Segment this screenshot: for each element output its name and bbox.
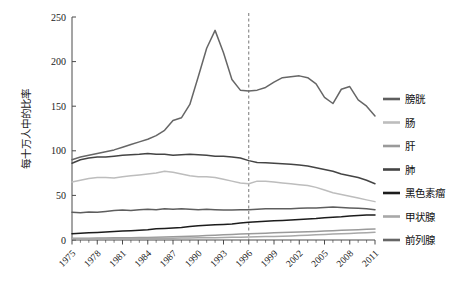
y-tick-label: 50 (56, 190, 66, 201)
legend-label-2: 肝 (405, 140, 416, 152)
y-tick-label: 150 (51, 101, 66, 112)
series-group (72, 30, 375, 238)
x-tick-label: 1975 (57, 248, 78, 269)
chart-figure: 每十万人中的比率 050100150200250 197519781981198… (0, 0, 465, 292)
legend-label-1: 肠 (405, 117, 415, 129)
legend-label-4: 黑色素瘤 (405, 187, 446, 199)
series-line-6 (72, 30, 375, 159)
x-tick-label: 1978 (82, 248, 103, 269)
legend-label-6: 前列腺 (405, 234, 436, 246)
y-axis-title-group: 每十万人中的比率 (20, 89, 32, 169)
x-tick-label: 2008 (335, 248, 356, 269)
x-tick-label: 1999 (259, 248, 280, 269)
y-tick-label: 0 (61, 235, 66, 246)
x-tick-group: 1975197819811984198719901993199619992002… (57, 240, 381, 269)
x-tick-label: 2005 (309, 248, 330, 269)
legend-label-0: 膀胱 (405, 93, 426, 105)
line-chart: 每十万人中的比率 050100150200250 197519781981198… (0, 0, 465, 292)
series-line-1 (72, 171, 375, 201)
x-tick-label: 1990 (183, 248, 204, 269)
y-tick-label: 100 (51, 145, 66, 156)
series-line-0 (72, 207, 375, 213)
x-tick-label: 2002 (284, 248, 305, 269)
legend-label-3: 肺 (405, 164, 416, 176)
x-tick-label: 1996 (234, 248, 255, 269)
x-tick-label: 1984 (133, 248, 154, 269)
y-tick-label: 250 (51, 12, 66, 23)
x-tick-label: 1993 (208, 248, 229, 269)
legend-label-5: 甲状腺 (405, 211, 436, 223)
x-tick-label: 1981 (107, 248, 128, 269)
x-tick-label: 1987 (158, 248, 179, 269)
y-tick-label: 200 (51, 56, 66, 67)
y-axis-title: 每十万人中的比率 (20, 89, 32, 169)
x-tick-label: 2011 (360, 248, 380, 268)
legend: 膀胱肠肝肺黑色素瘤甲状腺前列腺 (383, 93, 446, 246)
